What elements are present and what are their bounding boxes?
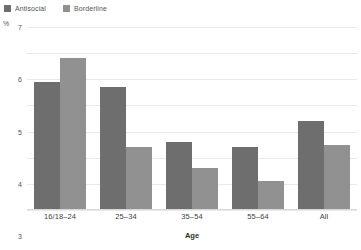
bar xyxy=(126,147,152,210)
bar-chart: Antisocial Borderline % 76543210 16/18–2… xyxy=(0,0,361,250)
y-axis-tick-label: 6 xyxy=(18,76,22,83)
legend-item-antisocial: Antisocial xyxy=(4,5,46,12)
bar xyxy=(298,121,324,210)
bar xyxy=(60,58,86,210)
legend-swatch-antisocial xyxy=(4,5,11,12)
x-axis-tick-label: 35–54 xyxy=(159,212,225,221)
bar-group xyxy=(291,27,357,210)
bar-group xyxy=(27,27,93,210)
chart-legend: Antisocial Borderline xyxy=(4,2,107,14)
y-axis-tick-label: 5 xyxy=(18,128,22,135)
bar xyxy=(324,145,350,210)
x-axis-line xyxy=(27,209,357,210)
bar xyxy=(166,142,192,210)
y-axis-tick-label: 7 xyxy=(18,24,22,31)
bar xyxy=(100,87,126,210)
x-axis-tick-labels: 16/18–2425–3435–5455–64All xyxy=(27,212,357,221)
gridline: 0 xyxy=(27,210,357,211)
x-axis-tick-label: 25–34 xyxy=(93,212,159,221)
bar-group xyxy=(93,27,159,210)
x-axis-tick-label: 16/18–24 xyxy=(27,212,93,221)
legend-swatch-borderline xyxy=(63,5,70,12)
y-axis-tick-label: 3 xyxy=(18,233,22,240)
legend-label-antisocial: Antisocial xyxy=(15,5,46,12)
legend-label-borderline: Borderline xyxy=(74,5,107,12)
y-axis-tick-label: 4 xyxy=(18,180,22,187)
y-axis-unit-label: % xyxy=(3,20,9,27)
plot-area: 76543210 xyxy=(27,27,357,210)
x-axis-title: Age xyxy=(27,231,357,240)
bar xyxy=(34,82,60,210)
bar-groups xyxy=(27,27,357,210)
bar xyxy=(232,147,258,210)
x-axis-tick-label: 55–64 xyxy=(225,212,291,221)
x-axis-tick-label: All xyxy=(291,212,357,221)
bar xyxy=(192,168,218,210)
bar xyxy=(258,181,284,210)
bar-group xyxy=(159,27,225,210)
legend-item-borderline: Borderline xyxy=(63,5,107,12)
bar-group xyxy=(225,27,291,210)
